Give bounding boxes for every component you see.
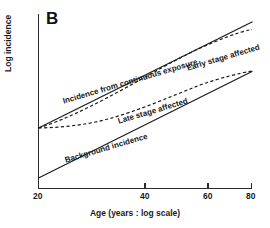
x-axis-ticks: [39, 183, 252, 189]
x-tick-label-20: 20: [33, 192, 42, 201]
y-axis-title: Log incidence: [4, 15, 13, 72]
x-tick-label-60: 60: [203, 192, 212, 201]
x-axis-title: Age (years : log scale): [0, 209, 270, 218]
figure-panel-b: B Incidence from continuous exposure Ear…: [0, 0, 270, 228]
x-tick-label-80: 80: [246, 192, 255, 201]
panel-letter: B: [46, 10, 58, 27]
x-tick-label-40: 40: [140, 192, 149, 201]
